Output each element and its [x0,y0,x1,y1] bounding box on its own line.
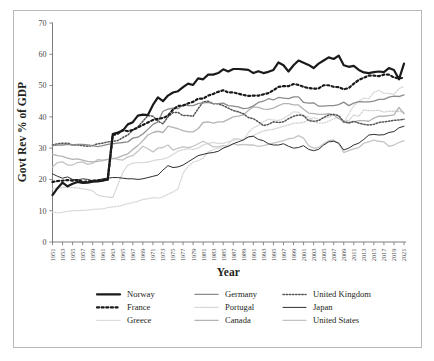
x-tick-label: 1981 [200,249,207,262]
legend-item-united-states[interactable]: United States [283,315,360,325]
line-chart: 0102030405060701951195319551957195919611… [0,0,434,361]
series-line-canada [53,104,405,162]
x-tick-label: 2011 [350,249,357,262]
series-line-japan [53,126,405,180]
axes [53,23,407,243]
y-tick-label: 70 [39,19,47,28]
legend: NorwayFranceGreeceGermanyPortugalCanadaU… [97,289,371,325]
series-line-germany [53,95,405,147]
x-tick-label: 2019 [390,249,397,262]
x-tick-label: 1987 [230,248,237,262]
x-tick-label: 1955 [69,249,76,262]
x-tick-label: 1969 [139,249,146,262]
y-tick-label: 50 [39,81,47,90]
y-axis-title: Govt Rev % of GDP [16,82,28,182]
x-tick-label: 2009 [340,249,347,262]
x-tick-label: 1995 [270,249,277,262]
x-tick-label: 1977 [179,248,186,262]
y-tick-label: 40 [39,113,47,122]
x-tick-label: 1951 [49,249,56,262]
x-tick-label: 1991 [250,249,257,262]
x-tick-label: 1953 [59,249,66,262]
x-tick-label: 1959 [89,249,96,262]
y-tick-label: 10 [39,207,47,216]
legend-item-portugal[interactable]: Portugal [195,302,255,312]
legend-label-greece: Greece [127,315,152,325]
x-tick-label: 2021 [400,249,407,262]
x-tick-label: 1975 [169,249,176,262]
legend-label-united-states: United States [313,315,360,325]
legend-item-germany[interactable]: Germany [195,289,258,299]
x-tick-label: 1979 [190,249,197,262]
x-tick-label: 1993 [260,249,267,262]
x-tick-label: 1999 [290,249,297,262]
y-tick-label: 30 [39,144,47,153]
series-line-france [53,75,405,182]
x-tick-label: 1965 [119,249,126,262]
series-line-norway [53,56,405,196]
x-tick-label: 2015 [370,249,377,262]
x-tick-label: 2013 [360,249,367,262]
x-tick-label: 1983 [210,249,217,262]
legend-label-portugal: Portugal [225,302,255,312]
x-tick-label: 1971 [149,249,156,262]
x-tick-label: 2005 [320,249,327,262]
y-tick-labels: 010203040506070 [39,19,53,247]
legend-item-greece[interactable]: Greece [97,315,152,325]
chart-container: 0102030405060701951195319551957195919611… [0,0,434,361]
x-tick-label: 1961 [99,249,106,262]
legend-label-united-kingdom: United Kingdom [313,289,371,299]
series-line-united-states [53,136,405,167]
legend-item-canada[interactable]: Canada [195,315,251,325]
x-tick-label: 2003 [310,249,317,262]
x-tick-label: 1967 [129,248,136,262]
y-tick-label: 20 [39,175,47,184]
legend-label-france: France [127,302,151,312]
x-tick-label: 1997 [280,248,287,262]
x-axis-title: Year [217,266,240,278]
legend-label-norway: Norway [127,289,155,299]
legend-label-germany: Germany [225,289,258,299]
legend-item-france[interactable]: France [97,302,151,312]
y-tick-label: 0 [43,238,47,247]
legend-item-united-kingdom[interactable]: United Kingdom [283,289,371,299]
y-tick-label: 60 [39,50,47,59]
x-tick-label: 2007 [330,248,337,262]
x-tick-label: 1973 [159,249,166,262]
legend-item-norway[interactable]: Norway [97,289,155,299]
legend-label-canada: Canada [225,315,251,325]
data-series-group [53,56,405,213]
x-tick-label: 2017 [380,248,387,262]
x-tick-label: 1957 [79,248,86,262]
legend-item-japan[interactable]: Japan [283,302,333,312]
series-line-portugal [53,110,405,198]
x-tick-labels: 1951195319551957195919611963196519671969… [49,242,408,261]
x-tick-label: 1985 [220,249,227,262]
x-tick-label: 1989 [240,249,247,262]
x-tick-label: 1963 [109,249,116,262]
legend-label-japan: Japan [313,302,333,312]
series-line-united-kingdom [53,101,405,146]
x-tick-label: 2001 [300,249,307,262]
